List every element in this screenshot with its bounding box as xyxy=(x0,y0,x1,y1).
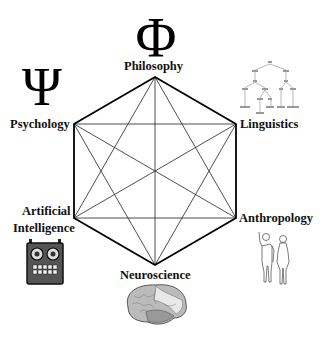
brain-icon xyxy=(127,285,186,324)
label-psychology: Psychology xyxy=(10,117,70,131)
psi-symbol-icon: Ψ xyxy=(12,60,72,114)
human-figures-icon xyxy=(259,232,289,284)
label-philosophy: Philosophy xyxy=(124,59,183,73)
label-neuroscience: Neuroscience xyxy=(120,268,191,282)
syntax-tree-icon xyxy=(240,61,299,114)
phi-symbol-icon: Φ xyxy=(135,10,177,66)
label-anthropology: Anthropology xyxy=(239,211,313,225)
label-linguistics: Linguistics xyxy=(240,117,298,131)
label-intelligence: Intelligence xyxy=(13,221,75,235)
label-artificial: Artificial xyxy=(22,204,71,218)
robot-icon xyxy=(27,239,63,284)
inner-connections xyxy=(74,77,236,265)
